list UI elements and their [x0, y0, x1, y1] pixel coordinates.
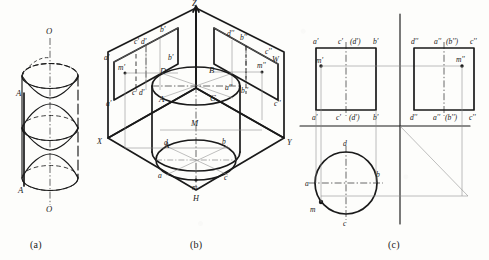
part-c-group: a' c' (d') b' a' c' (d') b' m' d'' a'' (…	[300, 14, 477, 228]
part-b-label-x: X	[96, 137, 103, 146]
part-b-label-b-prime-bottom: b'	[168, 53, 174, 62]
part-b-label-m: m	[192, 183, 198, 192]
part-c-front-bottom-label-d: (d')	[349, 113, 360, 122]
part-a-label-axis-top: O	[46, 26, 52, 36]
part-a-label-axis-bottom: O	[46, 204, 52, 214]
part-b-label-h: H	[192, 194, 200, 203]
drawing-canvas: .heavy{stroke:#1a1a1a;stroke-width:1.7;f…	[0, 0, 489, 260]
caption-c: (c)	[388, 239, 400, 250]
part-b-group: Z X Y H W a' c' d' b' m' a' c' d' b' d''…	[96, 0, 293, 203]
part-b-label-D: D	[159, 66, 167, 76]
part-b-label-b-double-top: b''	[240, 33, 247, 42]
part-b-label-cd-prime-bottom: c' d'	[132, 88, 145, 97]
part-c-top-label-c: c	[343, 219, 347, 228]
part-c-top-label-a: a	[305, 179, 309, 188]
part-c-front-top-label-a: a'	[313, 37, 319, 46]
part-b-label-d: d	[164, 138, 168, 147]
part-c-miter-line	[400, 126, 468, 196]
part-b-label-m-prime: m'	[118, 63, 125, 72]
part-b-label-a-prime-left: a'	[104, 53, 110, 62]
part-c-front-bottom-label-a: a'	[312, 113, 318, 122]
part-a-group: O O A A	[15, 26, 78, 214]
part-c-side-bottom-label-c: c''	[469, 113, 476, 122]
part-c-front-top-label-b: b'	[373, 37, 379, 46]
part-b-label-c-double-bottom: c''	[274, 99, 281, 108]
part-c-side-top-label-a: a''	[434, 37, 441, 46]
part-b-label-m-double: m''	[257, 61, 266, 70]
technical-drawing-figure: .heavy{stroke:#1a1a1a;stroke-width:1.7;f…	[0, 0, 489, 260]
part-c-side-top-label-d: d''	[411, 37, 418, 46]
caption-a: (a)	[30, 239, 42, 250]
part-b-label-d-double-top: d''	[227, 29, 234, 38]
part-b-label-M: M	[190, 118, 199, 128]
part-b-label-B: B	[209, 65, 215, 75]
part-b-label-a: a	[158, 171, 162, 180]
part-c-side-bottom-label-a: a''	[433, 113, 440, 122]
part-b-label-y: Y	[287, 138, 293, 147]
part-b-label-C: C	[210, 93, 216, 103]
part-c-side-top-label-c: c''	[470, 37, 477, 46]
part-b-label-b: b	[222, 137, 226, 146]
part-a-label-point-upper: A	[15, 88, 22, 98]
part-b-label-cd-prime-top: c' d'	[134, 37, 147, 46]
part-c-side-bottom-label-b: (b'')	[445, 113, 458, 122]
part-a-label-point-lower: A	[17, 185, 24, 195]
part-c-side-bottom-label-d: d''	[410, 113, 417, 122]
part-c-top-label-d: d	[343, 139, 347, 148]
part-b-label-a-prime-bottom: a'	[106, 99, 112, 108]
part-b-label-w: W	[272, 55, 280, 64]
part-b-m-point	[194, 178, 197, 181]
part-c-side-top-label-b: (b'')	[446, 37, 459, 46]
part-c-front-point-label: m'	[316, 56, 323, 65]
part-b-label-b-double-bottom: b''	[241, 86, 248, 95]
part-b-label-A-top: A	[158, 94, 165, 104]
part-b-label-c-double-top: c''	[265, 47, 272, 56]
caption-b: (b)	[190, 239, 202, 250]
part-b-label-a-double-bottom: a''	[225, 83, 232, 92]
part-b-label-c: c	[224, 173, 228, 182]
part-c-front-bottom-label-c: c'	[336, 113, 341, 122]
part-c-front-top-label-c: c'	[338, 37, 343, 46]
part-b-label-z: Z	[192, 0, 197, 8]
part-a-helix-upper-hidden-1	[22, 58, 50, 76]
part-c-side-point-label: m''	[456, 55, 465, 64]
part-b-label-b-prime-top: b'	[160, 25, 166, 34]
part-c-top-label-m: m	[310, 205, 316, 214]
part-c-top-label-b: b	[376, 170, 380, 179]
part-c-front-top-label-d: (d')	[350, 37, 361, 46]
